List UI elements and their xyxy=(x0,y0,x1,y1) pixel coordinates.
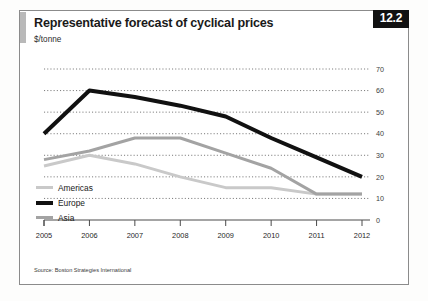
y-axis-tick-label-30: 30 xyxy=(376,151,384,160)
legend-label-asia: Asia xyxy=(58,213,74,223)
y-axis-tick-label-40: 40 xyxy=(376,129,384,138)
y-axis-tick-label-50: 50 xyxy=(376,108,384,117)
x-axis-tick-label-2009: 2009 xyxy=(217,231,233,240)
chart-legend: Americas Europe Asia xyxy=(36,180,146,225)
title-accent-bar xyxy=(20,12,26,43)
y-axis-tick-label-70: 70 xyxy=(376,65,384,74)
line-chart: 0102030405060702005200620072008200920102… xyxy=(20,59,410,257)
legend-swatch-europe xyxy=(36,201,53,205)
x-axis-tick-label-2006: 2006 xyxy=(81,231,97,240)
figure-frame: Representative forecast of cyclical pric… xyxy=(19,10,409,285)
x-axis-tick-label-2008: 2008 xyxy=(172,231,188,240)
legend-label-americas: Americas xyxy=(58,183,93,193)
chart-plot-area: 0102030405060702005200620072008200920102… xyxy=(20,59,410,257)
x-axis-tick-label-2005: 2005 xyxy=(36,231,52,240)
x-axis-tick-label-2012: 2012 xyxy=(354,231,370,240)
legend-swatch-asia xyxy=(36,216,53,219)
x-axis-tick-label-2007: 2007 xyxy=(127,231,143,240)
figure-number-badge: 12.2 xyxy=(373,10,409,28)
series-line-europe xyxy=(44,91,362,177)
y-axis-tick-label-20: 20 xyxy=(376,173,384,182)
source-note: Source: Boston Strategies International xyxy=(34,267,131,273)
legend-item-europe: Europe xyxy=(36,195,146,210)
x-axis-tick-label-2011: 2011 xyxy=(309,231,325,240)
legend-label-europe: Europe xyxy=(58,198,85,208)
y-axis-tick-label-0: 0 xyxy=(376,216,380,225)
figure-subtitle: $/tonne xyxy=(34,35,61,44)
y-axis-tick-label-60: 60 xyxy=(376,86,384,95)
figure-header: Representative forecast of cyclical pric… xyxy=(20,11,408,59)
legend-item-americas: Americas xyxy=(36,180,146,195)
y-axis-tick-label-10: 10 xyxy=(376,194,384,203)
legend-item-asia: Asia xyxy=(36,210,146,225)
x-axis-tick-label-2010: 2010 xyxy=(263,231,279,240)
page-title: Representative forecast of cyclical pric… xyxy=(34,16,273,30)
legend-swatch-americas xyxy=(36,186,53,189)
